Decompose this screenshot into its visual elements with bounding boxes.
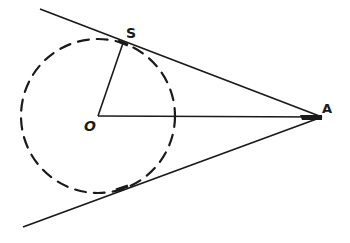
label-o: O	[84, 118, 96, 134]
tangent-diagram: S O A	[0, 0, 350, 243]
radius-os-line	[98, 43, 123, 116]
line-oa	[98, 116, 322, 117]
vertex-a-mark	[300, 115, 322, 120]
label-s: S	[126, 25, 136, 41]
upper-tangent-line	[40, 9, 322, 117]
lower-tangent-line	[23, 117, 322, 227]
label-a: A	[322, 101, 332, 116]
